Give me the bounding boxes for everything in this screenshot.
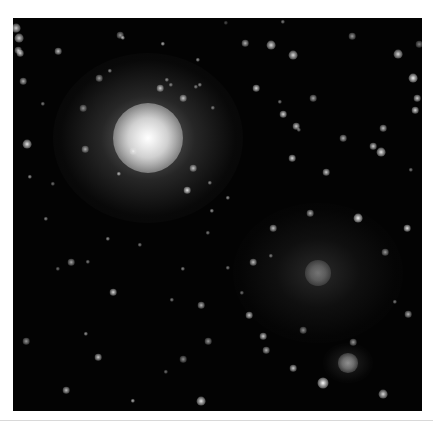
star (23, 338, 30, 345)
star (354, 214, 363, 223)
star (110, 289, 117, 296)
star (15, 47, 22, 54)
star (253, 85, 260, 92)
star (197, 397, 206, 406)
star (250, 259, 257, 266)
small-galaxy-halo (323, 343, 373, 383)
star (84, 332, 88, 336)
star (68, 259, 75, 266)
star (307, 210, 314, 217)
star (377, 148, 386, 157)
star (269, 254, 273, 258)
star (56, 267, 60, 271)
star (205, 338, 212, 345)
star (246, 312, 253, 319)
star (297, 128, 301, 132)
star (161, 42, 165, 46)
star (164, 370, 168, 374)
star (190, 165, 197, 172)
star (157, 85, 164, 92)
star (280, 111, 287, 118)
bright-galaxy-core (113, 103, 183, 173)
star (394, 50, 403, 59)
star (181, 267, 185, 271)
star (267, 41, 276, 50)
star (198, 83, 202, 87)
star (106, 237, 110, 241)
star (82, 146, 89, 153)
star (380, 125, 387, 132)
star (196, 58, 200, 62)
star (318, 378, 329, 389)
star (242, 40, 249, 47)
star (131, 399, 135, 403)
star (23, 140, 32, 149)
star (340, 135, 347, 142)
star (170, 298, 174, 302)
star (41, 102, 45, 106)
star (108, 69, 112, 73)
star (117, 172, 121, 176)
star (290, 365, 297, 372)
star (260, 333, 267, 340)
star (63, 387, 70, 394)
star (404, 225, 411, 232)
star (226, 266, 230, 270)
star (80, 105, 87, 112)
star (180, 356, 187, 363)
star (194, 85, 198, 89)
star (198, 302, 205, 309)
star (55, 48, 62, 55)
star (379, 390, 388, 399)
star (278, 100, 282, 104)
small-galaxy-core (338, 353, 357, 372)
star (96, 75, 103, 82)
star (409, 168, 413, 172)
star (370, 143, 377, 150)
star (414, 95, 421, 102)
star (15, 34, 24, 43)
star (180, 95, 187, 102)
star (289, 51, 298, 60)
star (350, 339, 357, 346)
star (184, 187, 191, 194)
star (20, 78, 27, 85)
star (226, 196, 230, 200)
star (409, 74, 418, 83)
star (382, 249, 389, 256)
faint-galaxy-halo (233, 203, 403, 343)
star (86, 260, 90, 264)
star (263, 347, 270, 354)
astronomical-image (13, 18, 422, 411)
star (289, 155, 296, 162)
star (165, 78, 169, 82)
star (138, 243, 142, 247)
star (169, 83, 173, 87)
faint-galaxy-core (305, 260, 331, 286)
star (121, 36, 125, 40)
star (349, 33, 356, 40)
star (281, 20, 285, 24)
star (416, 41, 422, 48)
star (323, 169, 330, 176)
star (13, 24, 20, 33)
star (51, 182, 55, 186)
star (208, 181, 212, 185)
star (300, 327, 307, 334)
star (270, 225, 277, 232)
star (405, 311, 412, 318)
frame-divider-line (0, 420, 433, 421)
star (211, 106, 215, 110)
star (310, 95, 317, 102)
star (412, 107, 419, 114)
star (130, 148, 137, 155)
star (206, 231, 210, 235)
star (44, 217, 48, 221)
star (95, 354, 102, 361)
star (28, 175, 32, 179)
star (393, 300, 397, 304)
star (240, 291, 244, 295)
star (224, 21, 228, 25)
star (210, 209, 214, 213)
bright-galaxy-halo (53, 53, 243, 223)
